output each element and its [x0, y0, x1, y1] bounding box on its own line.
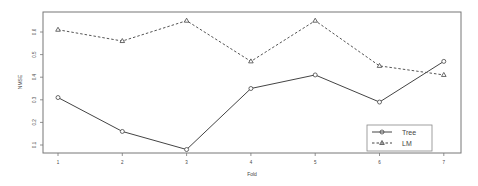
- circle-marker-icon: [313, 73, 317, 77]
- legend-box: [367, 125, 432, 151]
- y-tick-label: 0.5: [32, 51, 37, 58]
- x-tick-label: 2: [121, 160, 124, 165]
- circle-marker-icon: [120, 129, 124, 133]
- y-axis-label: NMSE: [17, 74, 23, 89]
- y-tick-label: 0.3: [32, 96, 37, 103]
- triangle-marker-icon: [249, 59, 254, 63]
- triangle-marker-icon: [184, 18, 189, 22]
- circle-marker-icon: [56, 96, 60, 100]
- x-tick-label: 5: [314, 160, 317, 165]
- y-tick-label: 0.4: [32, 74, 37, 81]
- x-tick-label: 1: [57, 160, 60, 165]
- y-axis: 0.10.20.30.40.50.6: [32, 28, 43, 148]
- series-lm-line: [58, 21, 444, 75]
- circle-marker-icon: [185, 148, 189, 152]
- triangle-marker-icon: [56, 27, 61, 31]
- y-tick-label: 0.1: [32, 141, 37, 148]
- x-axis-label: Fold: [247, 171, 257, 177]
- x-axis: 1234567: [57, 153, 446, 165]
- x-tick-label: 4: [250, 160, 253, 165]
- circle-marker-icon: [249, 87, 253, 91]
- legend: Tree LM: [367, 125, 432, 151]
- triangle-marker-icon: [442, 72, 447, 76]
- y-tick-label: 0.2: [32, 119, 37, 126]
- y-tick-label: 0.6: [32, 28, 37, 35]
- x-tick-label: 7: [443, 160, 446, 165]
- x-tick-label: 6: [378, 160, 381, 165]
- x-tick-label: 3: [185, 160, 188, 165]
- line-chart: 0.10.20.30.40.50.6 1234567 NMSE Fold Tre…: [0, 0, 478, 186]
- legend-label-lm: LM: [402, 140, 412, 147]
- circle-marker-icon: [442, 59, 446, 63]
- circle-marker-icon: [378, 100, 382, 104]
- triangle-marker-icon: [377, 63, 382, 67]
- triangle-marker-icon: [313, 18, 318, 22]
- triangle-marker-icon: [120, 39, 125, 43]
- legend-label-tree: Tree: [402, 129, 416, 136]
